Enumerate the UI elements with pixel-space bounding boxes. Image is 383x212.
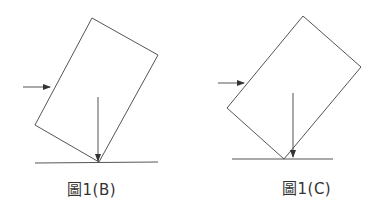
caption-figure-c: 圖1(C): [282, 177, 331, 198]
block-rectangle: [35, 18, 158, 162]
figure-b: [23, 18, 158, 163]
caption-figure-b: 圖1(B): [67, 178, 116, 199]
ground-line: [35, 162, 158, 163]
block-rectangle: [227, 16, 361, 159]
figure-c: [218, 16, 361, 159]
